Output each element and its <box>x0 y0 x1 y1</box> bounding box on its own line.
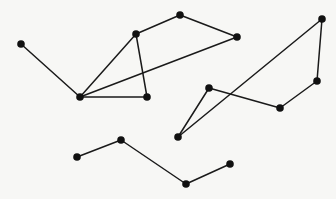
graph-edge <box>178 88 209 137</box>
graph-node <box>233 33 241 41</box>
graph-node <box>276 104 284 112</box>
graph-svg <box>0 0 336 199</box>
graph-edge <box>21 44 80 97</box>
graph-edge <box>178 19 322 137</box>
graph-edge <box>136 34 147 97</box>
graph-node <box>226 160 234 168</box>
graph-edge <box>77 140 121 157</box>
graph-edge <box>209 88 280 108</box>
graph-node <box>117 136 125 144</box>
graph-edge <box>136 15 180 34</box>
graph-node <box>174 133 182 141</box>
nodes-layer <box>17 11 326 188</box>
graph-edge <box>280 81 317 108</box>
graph-node <box>73 153 81 161</box>
graph-node <box>143 93 151 101</box>
graph-edge <box>186 164 230 184</box>
graph-node <box>318 15 326 23</box>
graph-edge <box>180 15 237 37</box>
graph-canvas <box>0 0 336 199</box>
edges-layer <box>21 15 322 184</box>
graph-node <box>132 30 140 38</box>
graph-node <box>176 11 184 19</box>
graph-node <box>182 180 190 188</box>
graph-edge <box>80 34 136 97</box>
graph-edge <box>80 37 237 97</box>
graph-node <box>205 84 213 92</box>
graph-node <box>76 93 84 101</box>
graph-edge <box>317 19 322 81</box>
graph-node <box>17 40 25 48</box>
graph-node <box>313 77 321 85</box>
graph-edge <box>121 140 186 184</box>
